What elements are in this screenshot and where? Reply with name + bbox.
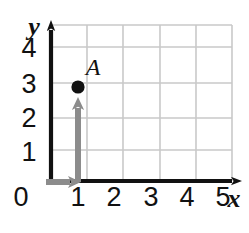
y-tick-label-2: 2: [16, 105, 42, 132]
x-tick-label-5: 5: [210, 184, 236, 211]
x-tick-label-1: 1: [65, 184, 91, 211]
point-a-label: A: [82, 55, 104, 79]
y-tick-label-4: 4: [16, 35, 42, 62]
y-tick-label-3: 3: [16, 71, 42, 98]
x-tick-label-4: 4: [174, 184, 200, 211]
y-tick-label-1: 1: [16, 139, 42, 166]
x-tick-label-2: 2: [101, 184, 127, 211]
x-tick-label-3: 3: [138, 184, 164, 211]
coordinate-plane-figure: y x 0 4 3 2 1 1 2 3 4 5 A: [0, 0, 249, 233]
point-a-marker: [71, 80, 84, 93]
origin-label-0: 0: [8, 184, 34, 211]
